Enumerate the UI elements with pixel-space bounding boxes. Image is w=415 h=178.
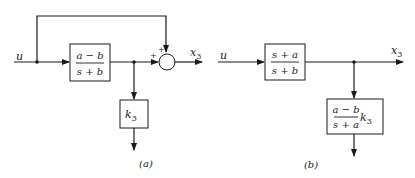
output-label-x: x3 [190,46,201,61]
block-a1-numerator: a − b [76,50,103,61]
diagram-b: u s + a s + b x3 a − b s + a k3 (b) [218,44,403,170]
summing-junction [159,54,175,70]
output-label-x: x3 [391,44,402,59]
block-a1-denominator: s + b [77,66,103,77]
block-b2-denominator: s + a [333,119,359,130]
input-label-u: u [16,50,23,63]
block-b2-numerator: a − b [332,104,359,115]
block-diagrams: u a − b s + b + + x3 k3 (a) u s + a s + [0,0,415,178]
summer-sign-top: + [158,45,165,54]
block-b1-denominator: s + b [272,65,298,76]
block-b1-numerator: s + a [272,49,298,60]
caption-a: (a) [139,158,153,169]
diagram-a: u a − b s + b + + x3 k3 (a) [14,16,202,169]
caption-b: (b) [304,159,318,170]
summer-sign-left: + [150,51,157,60]
input-label-u: u [220,49,227,62]
